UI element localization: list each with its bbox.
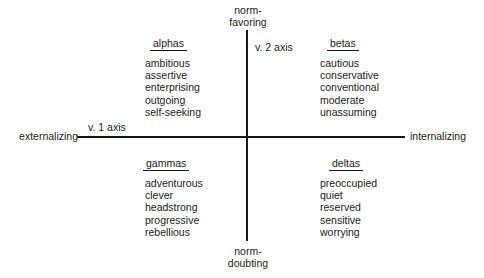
trait-item: unassuming <box>320 106 434 118</box>
trait-item: preoccupied <box>320 177 434 189</box>
trait-item: adventurous <box>145 177 259 189</box>
trait-item: self-seeking <box>145 106 259 118</box>
trait-item: assertive <box>145 69 259 81</box>
trait-item: ambitious <box>145 57 259 69</box>
trait-item: outgoing <box>145 94 259 106</box>
trait-item: enterprising <box>145 81 259 93</box>
trait-item: conservative <box>320 69 434 81</box>
trait-item: moderate <box>320 94 434 106</box>
quadrant-heading-alphas: alphas <box>150 37 187 51</box>
quadrant-gammas: gammas adventurous clever headstrong pro… <box>127 153 259 238</box>
trait-item: rebellious <box>145 226 259 238</box>
quadrant-alphas: alphas ambitious assertive enterprising … <box>127 33 259 118</box>
trait-list-deltas: preoccupied quiet reserved sensitive wor… <box>302 177 434 238</box>
trait-item: clever <box>145 189 259 201</box>
quadrant-heading-row-betas: betas <box>302 33 459 57</box>
trait-item: conventional <box>320 81 434 93</box>
trait-item: cautious <box>320 57 434 69</box>
axis-pole-label-left: externalizing <box>8 130 78 142</box>
trait-item: progressive <box>145 214 259 226</box>
trait-item: quiet <box>320 189 434 201</box>
trait-item: headstrong <box>145 201 259 213</box>
quadrant-heading-row-gammas: gammas <box>127 153 275 177</box>
quadrant-heading-betas: betas <box>327 37 359 51</box>
trait-item: worrying <box>320 226 434 238</box>
horizontal-axis-line <box>77 136 405 138</box>
quadrant-diagram: norm- favoring norm- doubting externaliz… <box>0 0 484 278</box>
trait-list-alphas: ambitious assertive enterprising outgoin… <box>127 57 259 118</box>
trait-list-gammas: adventurous clever headstrong progressiv… <box>127 177 259 238</box>
axis-pole-label-right: internalizing <box>410 130 484 142</box>
quadrant-heading-gammas: gammas <box>143 157 189 171</box>
quadrant-betas: betas cautious conservative conventional… <box>302 33 434 118</box>
quadrant-heading-row-deltas: deltas <box>302 153 461 177</box>
horizontal-axis-name: v. 1 axis <box>88 121 126 133</box>
quadrant-deltas: deltas preoccupied quiet reserved sensit… <box>302 153 434 238</box>
trait-item: reserved <box>320 201 434 213</box>
quadrant-heading-row-alphas: alphas <box>127 33 282 57</box>
trait-item: sensitive <box>320 214 434 226</box>
trait-list-betas: cautious conservative conventional moder… <box>302 57 434 118</box>
axis-pole-label-bottom: norm- doubting <box>198 245 298 269</box>
quadrant-heading-deltas: deltas <box>329 157 363 171</box>
axis-pole-label-top: norm- favoring <box>198 4 298 28</box>
